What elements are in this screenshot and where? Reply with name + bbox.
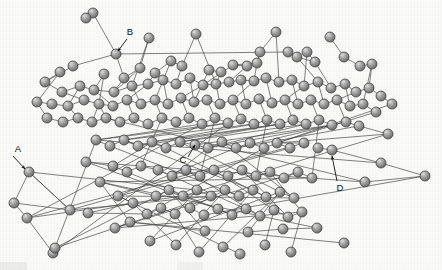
graph-node[interactable] xyxy=(243,227,253,237)
graph-node[interactable] xyxy=(241,99,251,109)
graph-node[interactable] xyxy=(119,73,129,83)
graph-node[interactable] xyxy=(58,117,68,127)
graph-node[interactable] xyxy=(332,95,342,105)
graph-node[interactable] xyxy=(216,67,226,77)
graph-node[interactable] xyxy=(171,117,181,127)
graph-node[interactable] xyxy=(127,81,137,91)
graph-node[interactable] xyxy=(383,129,393,139)
graph-node[interactable] xyxy=(175,137,185,147)
graph-node[interactable] xyxy=(75,81,85,91)
graph-node[interactable] xyxy=(128,198,138,208)
graph-node[interactable] xyxy=(204,65,214,75)
graph-node[interactable] xyxy=(339,52,349,62)
graph-node[interactable] xyxy=(252,58,262,68)
graph-node[interactable] xyxy=(312,223,322,233)
graph-node[interactable] xyxy=(109,87,119,97)
graph-node[interactable] xyxy=(122,167,132,177)
graph-node[interactable] xyxy=(283,47,293,57)
graph-node[interactable] xyxy=(255,47,265,57)
graph-node[interactable] xyxy=(261,73,271,83)
graph-node[interactable] xyxy=(105,141,115,151)
graph-node[interactable] xyxy=(283,212,293,222)
graph-node[interactable] xyxy=(81,157,91,167)
graph-node[interactable] xyxy=(40,77,50,87)
graph-node[interactable] xyxy=(197,119,207,129)
graph-node[interactable] xyxy=(307,173,317,183)
graph-node[interactable] xyxy=(32,97,42,107)
graph-node[interactable] xyxy=(89,85,99,95)
graph-node[interactable] xyxy=(325,32,335,42)
graph-node[interactable] xyxy=(157,113,167,123)
graph-node[interactable] xyxy=(164,185,174,195)
graph-node[interactable] xyxy=(203,143,213,153)
graph-node[interactable] xyxy=(314,115,324,125)
graph-node[interactable] xyxy=(313,143,323,153)
graph-node[interactable] xyxy=(198,80,208,90)
graph-node[interactable] xyxy=(101,113,111,123)
graph-node[interactable] xyxy=(217,137,227,147)
graph-node[interactable] xyxy=(147,137,157,147)
graph-node[interactable] xyxy=(249,76,259,86)
graph-node[interactable] xyxy=(87,117,97,127)
graph-node[interactable] xyxy=(185,203,195,213)
graph-node[interactable] xyxy=(297,207,307,217)
graph-node[interactable] xyxy=(136,99,146,109)
graph-node[interactable] xyxy=(279,173,289,183)
graph-node[interactable] xyxy=(236,114,246,124)
graph-node[interactable] xyxy=(171,240,181,250)
graph-node[interactable] xyxy=(192,185,202,195)
graph-node[interactable] xyxy=(327,120,337,130)
graph-node[interactable] xyxy=(224,77,234,87)
graph-node[interactable] xyxy=(119,135,129,145)
graph-node[interactable] xyxy=(248,185,258,195)
graph-node[interactable] xyxy=(9,198,19,208)
graph-node[interactable] xyxy=(83,208,93,218)
graph-node[interactable] xyxy=(55,67,65,77)
graph-node[interactable] xyxy=(142,209,152,219)
graph-node[interactable] xyxy=(24,167,34,177)
graph-node[interactable] xyxy=(170,209,180,219)
graph-node[interactable] xyxy=(158,75,168,85)
graph-node[interactable] xyxy=(191,29,201,39)
graph-node[interactable] xyxy=(313,77,323,87)
graph-node[interactable] xyxy=(65,205,75,215)
graph-node[interactable] xyxy=(210,113,220,123)
graph-node[interactable] xyxy=(95,177,105,187)
graph-node[interactable] xyxy=(133,141,143,151)
graph-node[interactable] xyxy=(185,73,195,83)
graph-node[interactable] xyxy=(213,204,223,214)
graph-node[interactable] xyxy=(81,13,91,23)
graph-node[interactable] xyxy=(261,192,271,202)
graph-node[interactable] xyxy=(293,167,303,177)
graph-node[interactable] xyxy=(249,119,259,129)
graph-node[interactable] xyxy=(340,79,350,89)
graph-node[interactable] xyxy=(150,95,160,105)
graph-node[interactable] xyxy=(355,61,365,71)
graph-node[interactable] xyxy=(293,99,303,109)
graph-node[interactable] xyxy=(228,95,238,105)
graph-node[interactable] xyxy=(163,99,173,109)
graph-node[interactable] xyxy=(202,95,212,105)
graph-node[interactable] xyxy=(129,113,139,123)
graph-node[interactable] xyxy=(301,119,311,129)
graph-node[interactable] xyxy=(255,211,265,221)
graph-node[interactable] xyxy=(310,57,320,67)
graph-node[interactable] xyxy=(184,113,194,123)
graph-node[interactable] xyxy=(275,187,285,197)
graph-node[interactable] xyxy=(364,83,374,93)
graph-node[interactable] xyxy=(63,101,73,111)
graph-node[interactable] xyxy=(143,119,153,129)
graph-node[interactable] xyxy=(228,60,238,70)
graph-node[interactable] xyxy=(345,101,355,111)
graph-node[interactable] xyxy=(260,240,270,250)
graph-node[interactable] xyxy=(189,97,199,107)
graph-node[interactable] xyxy=(181,165,191,175)
graph-node[interactable] xyxy=(47,99,57,109)
graph-node[interactable] xyxy=(241,204,251,214)
graph-node[interactable] xyxy=(153,165,163,175)
graph-node[interactable] xyxy=(171,79,181,89)
graph-node[interactable] xyxy=(50,243,60,253)
graph-node[interactable] xyxy=(68,61,78,71)
graph-node[interactable] xyxy=(286,247,296,257)
graph-node[interactable] xyxy=(73,113,83,123)
